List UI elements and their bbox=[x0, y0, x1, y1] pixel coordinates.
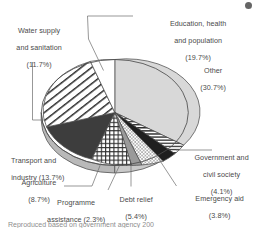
label-water-supply-and-sanitation: Water supply and sanitation (11.7%) bbox=[0, 18, 70, 78]
page-marker-dot-icon bbox=[245, 2, 252, 9]
leader-emergency-aid bbox=[159, 159, 177, 187]
label-education-line1: Education, health bbox=[170, 19, 226, 28]
label-other-line1: Other bbox=[204, 66, 222, 75]
label-emergency-line2: (3.8%) bbox=[209, 211, 230, 220]
label-other: Other (30.7%) bbox=[184, 58, 234, 101]
label-transport-line2: industry (13.7%) bbox=[11, 173, 64, 182]
label-water-line1: Water supply bbox=[18, 26, 60, 35]
label-transport-line1: Transport and bbox=[11, 156, 56, 165]
label-emergency-line1: Emergency aid bbox=[195, 194, 244, 203]
label-water-line2: and sanitation bbox=[16, 43, 61, 52]
label-government-line2: civil society bbox=[203, 170, 240, 179]
figure-footnote: Reproduced based on government agency 20… bbox=[8, 221, 228, 228]
label-agriculture-line2: (8.7%) bbox=[28, 195, 49, 204]
pie-chart-figure: Education, health and population (19.7%)… bbox=[0, 0, 255, 228]
label-debt-line2: (5.4%) bbox=[125, 212, 146, 221]
label-other-line2: (30.7%) bbox=[200, 83, 226, 92]
label-education-line2: and population bbox=[174, 36, 222, 45]
label-debt-line1: Debt relief bbox=[119, 195, 152, 204]
label-transport-and-industry: Transport and industry (13.7%) bbox=[3, 148, 83, 191]
label-water-line3: (11.7%) bbox=[27, 60, 52, 69]
label-government-line1: Government and bbox=[194, 153, 248, 162]
